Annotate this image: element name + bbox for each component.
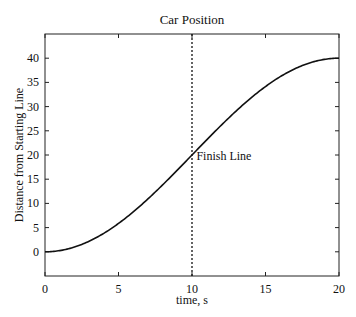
- y-axis-ticks: 0510152025303540: [27, 51, 339, 259]
- chart-title: Car Position: [160, 12, 225, 27]
- y-tick-label: 25: [27, 124, 39, 138]
- y-tick-label: 10: [27, 196, 39, 210]
- x-tick-label: 0: [42, 282, 48, 296]
- chart: Car Position 05101520 0510152025303540 F…: [0, 0, 356, 317]
- x-tick-label: 15: [260, 282, 272, 296]
- y-axis-label: Distance from Starting Line: [12, 88, 26, 222]
- x-axis-ticks: 05101520: [42, 34, 345, 296]
- y-tick-label: 30: [27, 100, 39, 114]
- y-tick-label: 20: [27, 148, 39, 162]
- y-tick-label: 5: [33, 221, 39, 235]
- x-tick-label: 20: [333, 282, 345, 296]
- y-tick-label: 35: [27, 75, 39, 89]
- y-tick-label: 0: [33, 245, 39, 259]
- x-tick-label: 5: [116, 282, 122, 296]
- x-axis-label: time, s: [176, 293, 208, 307]
- y-tick-label: 15: [27, 172, 39, 186]
- finish-line-label: Finish Line: [196, 149, 251, 163]
- y-tick-label: 40: [27, 51, 39, 65]
